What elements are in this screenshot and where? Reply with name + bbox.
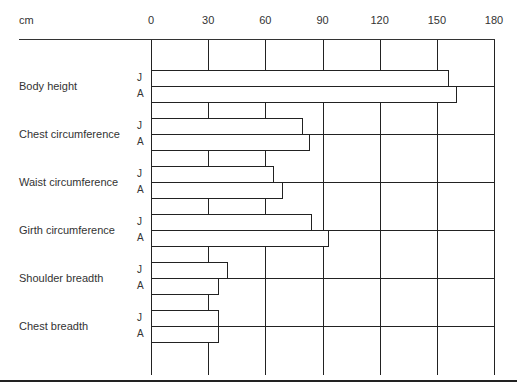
bottom-rule <box>0 380 517 382</box>
bar-j <box>151 262 228 279</box>
category-label: Shoulder breadth <box>19 272 103 284</box>
x-tick-label: 120 <box>370 14 388 26</box>
bar-a <box>151 86 457 103</box>
bar-a <box>151 326 219 343</box>
series-key-a: A <box>137 88 144 99</box>
bar-j <box>151 310 219 327</box>
series-key-j: J <box>137 216 142 227</box>
category-label: Girth circumference <box>19 224 115 236</box>
series-key-a: A <box>137 232 144 243</box>
category-label: Chest breadth <box>19 320 88 332</box>
bar-a <box>151 134 310 151</box>
category-label: Waist circumference <box>19 176 118 188</box>
series-key-j: J <box>137 168 142 179</box>
category-label: Body height <box>19 80 77 92</box>
x-tick-label: 30 <box>202 14 214 26</box>
x-tick-label: 150 <box>428 14 446 26</box>
grid-line-vertical <box>494 40 495 375</box>
series-key-a: A <box>137 280 144 291</box>
bar-j <box>151 166 274 183</box>
bar-a <box>151 230 329 247</box>
bar-a <box>151 182 283 199</box>
category-label: Chest circumference <box>19 128 120 140</box>
series-key-a: A <box>137 136 144 147</box>
bar-j <box>151 70 449 87</box>
series-key-a: A <box>137 328 144 339</box>
x-tick-label: 90 <box>316 14 328 26</box>
series-key-j: J <box>137 312 142 323</box>
series-key-a: A <box>137 184 144 195</box>
series-key-j: J <box>137 264 142 275</box>
x-tick-label: 0 <box>148 14 154 26</box>
top-rule <box>19 39 495 40</box>
bar-j <box>151 214 312 231</box>
x-tick-label: 180 <box>485 14 503 26</box>
axis-unit-label: cm <box>19 14 34 26</box>
bar-j <box>151 118 303 135</box>
series-key-j: J <box>137 120 142 131</box>
x-tick-label: 60 <box>259 14 271 26</box>
bar-a <box>151 278 219 295</box>
series-key-j: J <box>137 72 142 83</box>
